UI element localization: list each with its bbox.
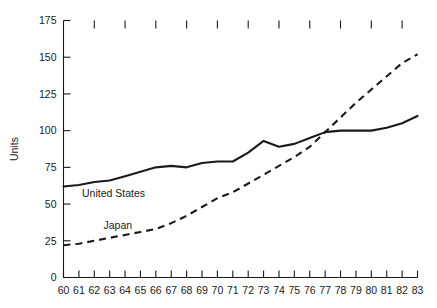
axis-spines xyxy=(64,21,418,278)
x-tick-label: 72 xyxy=(242,284,254,296)
line-chart: 0255075100125150175 60616263646566676869… xyxy=(0,0,437,308)
x-tick-label: 83 xyxy=(412,284,424,296)
y-tick-label: 25 xyxy=(45,235,57,247)
chart-axes xyxy=(64,21,418,278)
x-tick-label: 74 xyxy=(273,284,285,296)
chart-series-lines xyxy=(64,54,418,245)
x-tick-label: 71 xyxy=(227,284,239,296)
x-axis-tick-labels: 6061626364656667686970717273747576777879… xyxy=(58,284,424,296)
y-tick-label: 0 xyxy=(51,271,57,283)
x-tick-label: 75 xyxy=(289,284,301,296)
x-tick-label: 80 xyxy=(365,284,377,296)
x-tick-label: 77 xyxy=(319,284,331,296)
y-tick-label: 125 xyxy=(39,88,57,100)
x-tick-label: 65 xyxy=(135,284,147,296)
y-tick-label: 150 xyxy=(39,51,57,63)
y-tick-label: 175 xyxy=(39,14,57,26)
x-tick-label: 63 xyxy=(104,284,116,296)
series-inline-labels: United StatesJapan xyxy=(82,187,145,231)
y-axis-tick-labels: 0255075100125150175 xyxy=(39,14,57,283)
series-label-united-states: United States xyxy=(82,187,145,199)
y-tick-label: 75 xyxy=(45,161,57,173)
chart-tick-marks xyxy=(64,21,418,278)
x-tick-label: 66 xyxy=(150,284,162,296)
chart-svg: 0255075100125150175 60616263646566676869… xyxy=(0,0,437,308)
series-label-japan: Japan xyxy=(104,219,133,231)
x-tick-label: 70 xyxy=(212,284,224,296)
y-axis-title: Units xyxy=(8,137,20,161)
series-line-united-states xyxy=(64,116,418,186)
y-tick-label: 50 xyxy=(45,198,57,210)
x-tick-label: 61 xyxy=(73,284,85,296)
x-tick-label: 68 xyxy=(181,284,193,296)
x-tick-label: 82 xyxy=(396,284,408,296)
series-line-japan xyxy=(64,54,418,245)
x-tick-label: 76 xyxy=(304,284,316,296)
y-tick-label: 100 xyxy=(39,124,57,136)
x-tick-label: 69 xyxy=(196,284,208,296)
x-tick-label: 78 xyxy=(335,284,347,296)
x-tick-label: 67 xyxy=(165,284,177,296)
x-tick-label: 64 xyxy=(119,284,131,296)
x-tick-label: 62 xyxy=(88,284,100,296)
x-tick-label: 73 xyxy=(258,284,270,296)
x-tick-label: 79 xyxy=(350,284,362,296)
x-tick-label: 81 xyxy=(381,284,393,296)
x-tick-label: 60 xyxy=(58,284,70,296)
